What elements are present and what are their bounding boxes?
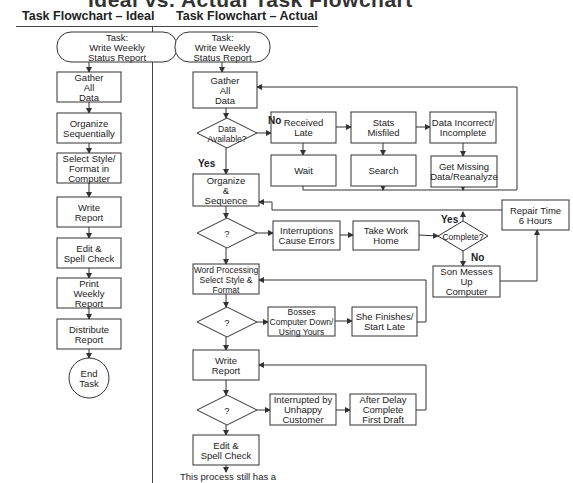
actual-node-a20: WriteReport [193,350,259,380]
flowchart-canvas: Task:Write WeeklyStatus ReportGatherAllD… [0,0,573,483]
complete-no-label: No [471,252,484,263]
actual-node-a0: Task:Write WeeklyStatus Report [175,32,270,63]
actual-node-a9: Organize&Sequence [193,174,259,206]
actual-node-a21: ? [197,395,257,425]
node-label: Word Processing [194,265,259,275]
node-label: Status Report [88,52,146,63]
node-label: Computer Down/ [270,317,334,327]
actual-node-a17: ? [197,307,257,337]
connector-arrow [500,230,537,281]
ideal-node-i6: PrintWeeklyReport [57,278,121,309]
node-label: ? [224,317,229,328]
actual-node-a19: She Finishes/Start Late [352,307,417,336]
footnote: This process still has a [180,471,276,482]
node-label: Report [212,365,241,376]
node-label: Select Style & [200,275,253,285]
node-label: Spell Check [201,450,252,461]
node-label: First Draft [362,414,404,425]
node-label: Cause Errors [279,235,335,246]
node-label: Customer [282,414,323,425]
actual-node-a13: Complete? [438,221,488,251]
node-label: Report [75,334,104,345]
node-label: Status Report [193,52,251,63]
complete-yes-label: Yes [441,214,459,225]
node-label: Computer [68,173,110,184]
actual-node-a4: StatsMisfiled [351,112,416,143]
ideal-node-i8: EndTask [69,358,109,398]
node-label: Start Late [364,321,405,332]
ideal-node-i2: OrganizeSequentially [57,113,121,143]
connector-arrow [419,235,438,236]
ideal-node-i0: Task:Write WeeklyStatus Report [57,32,177,63]
node-label: Task [79,378,99,389]
actual-node-a10: ? [197,218,257,248]
node-label: ? [224,405,229,416]
actual-node-a7: Search [351,155,416,186]
actual-node-a15: Son MessesUpComputer [433,266,500,297]
node-label: Data [79,92,100,103]
node-label: Report [75,212,104,223]
actual-node-a8: Get MissingData/Reanalyze [430,156,498,187]
actual-node-a5: Data Incorrect/Incomplete [430,112,496,143]
ideal-node-i1: GatherAllData [57,72,121,103]
actual-node-a18: BossesComputer Down/Using Yours [268,307,335,337]
actual-node-a22: Interrupted byUnhappyCustomer [270,394,336,425]
actual-node-a2: DataAvailable? [197,118,257,148]
actual-node-a16: Word ProcessingSelect Style &Format [193,264,259,295]
node-label: Data [218,124,236,134]
actual-node-a11: InterruptionsCause Errors [273,221,340,250]
ideal-node-i3: Select Style/Format inComputer [57,153,121,184]
actual-node-a1: GatherAllData [193,72,257,108]
actual-node-a24: Edit &Spell Check [193,435,259,465]
node-label: Incomplete [440,127,486,138]
actual-node-a14: Repair Time6 Hours [502,200,569,230]
node-label: Report [75,298,104,309]
ideal-node-i7: DistributeReport [57,319,121,349]
node-label: Using Yours [279,327,324,337]
ideal-node-i5: Edit &Spell Check [57,238,121,268]
node-label: Computer [446,286,488,297]
connector-arrow [259,202,502,210]
node-label: Complete? [442,232,483,242]
node-label: Home [373,235,398,246]
node-label: Bosses [288,307,316,317]
node-label: Data/Reanalyze [430,171,498,182]
node-label: Search [368,165,398,176]
actual-node-a12: Take WorkHome [353,221,419,250]
node-label: Wait [294,165,313,176]
node-label: Data [215,95,236,106]
actual-node-a23: After DelayCompleteFirst Draft [350,394,416,425]
node-label: ? [224,228,229,239]
node-label: Sequentially [63,128,115,139]
actual-node-a6: Wait [271,155,336,186]
ideal-node-i4: WriteReport [57,197,121,227]
node-label: Spell Check [64,253,115,264]
node-label: Format [213,285,241,295]
node-label: Sequence [205,195,248,206]
node-label: Available? [207,134,246,144]
node-label: Misfiled [367,127,399,138]
node-label: Late [294,127,313,138]
data-available-no-label: No [268,115,281,126]
node-label: 6 Hours [519,215,553,226]
data-available-yes-label: Yes [198,158,216,169]
